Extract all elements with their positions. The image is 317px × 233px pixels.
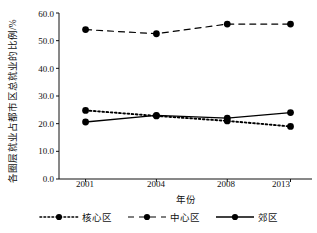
legend-item-core[interactable]: 核心区: [39, 210, 112, 224]
legend-key-solid-icon: [215, 211, 255, 223]
legend-label-center: 中心区: [170, 210, 200, 224]
data-point: [224, 115, 231, 122]
series-2: [82, 21, 294, 37]
data-point: [82, 26, 89, 33]
legend-item-suburb[interactable]: 郊区: [215, 210, 278, 224]
data-point: [153, 112, 160, 119]
data-series-layer: [82, 21, 294, 130]
data-point: [224, 21, 231, 28]
series-1: [82, 107, 294, 130]
chart-legend: 核心区 中心区 郊区: [0, 210, 317, 224]
data-point: [287, 109, 294, 116]
data-point: [153, 30, 160, 37]
data-point: [82, 119, 89, 126]
legend-key-dashed-icon: [127, 211, 167, 223]
data-point: [82, 107, 89, 114]
legend-label-suburb: 郊区: [258, 210, 278, 224]
legend-label-core: 核心区: [82, 210, 112, 224]
data-point: [287, 123, 294, 130]
chart-figure: 各圈层就业占都市区总就业的比例/% 60.0 50.0 40.0 30.0 20…: [0, 0, 317, 233]
legend-key-dotted-icon: [39, 211, 79, 223]
data-point: [287, 21, 294, 28]
legend-item-center[interactable]: 中心区: [127, 210, 200, 224]
axis-lines: [59, 13, 312, 179]
plot-area: [0, 0, 317, 233]
